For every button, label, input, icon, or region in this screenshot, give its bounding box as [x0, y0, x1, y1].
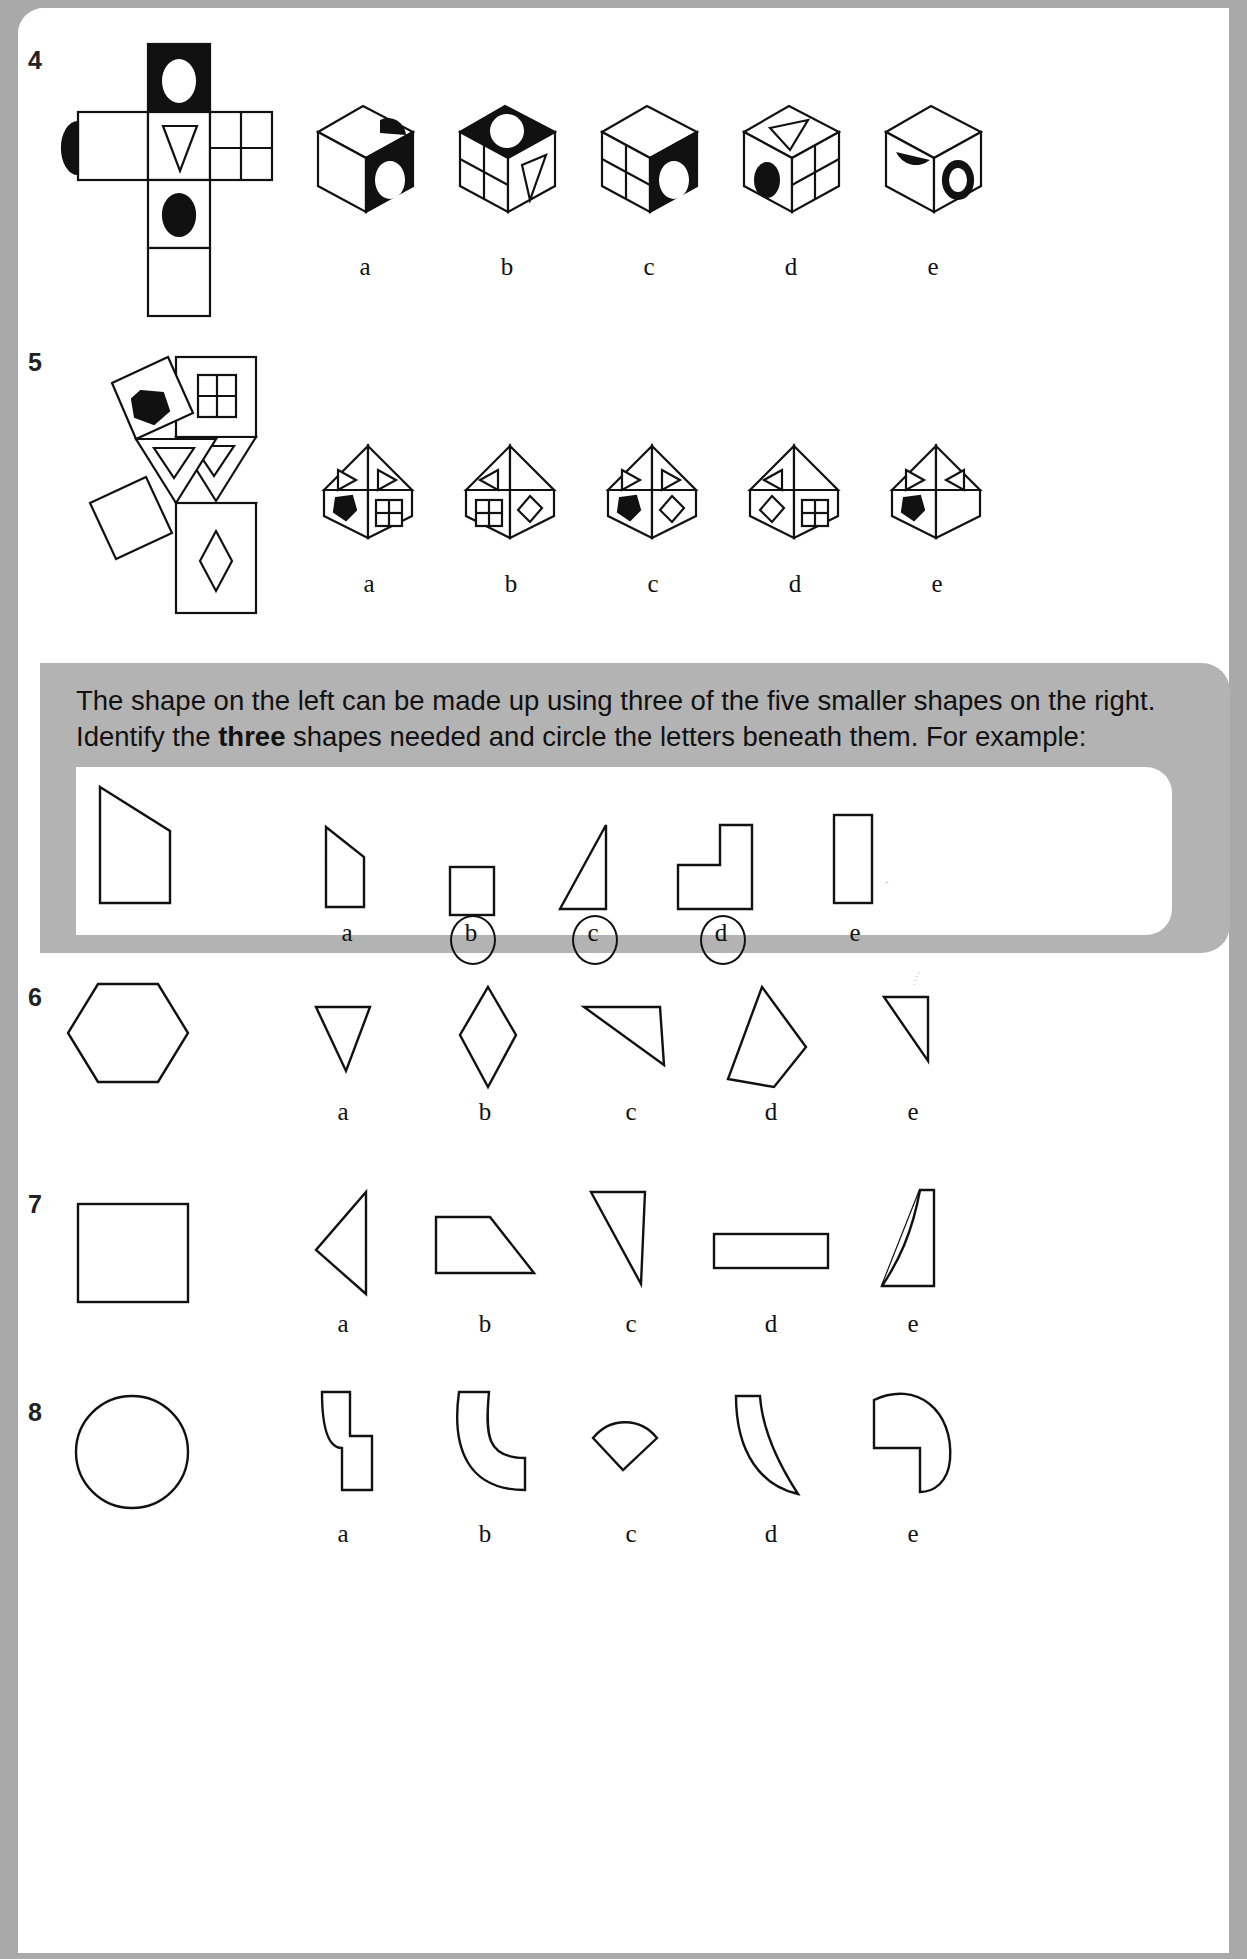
- q8-option-letter-d: d: [756, 1520, 786, 1548]
- q5-option-d-solid[interactable]: [740, 438, 850, 553]
- q4-option-c-cube[interactable]: [592, 100, 707, 220]
- q4-option-b-cube[interactable]: [450, 100, 565, 220]
- q4-cube-net: [58, 38, 308, 318]
- question-number-6: 6: [28, 983, 42, 1012]
- q7-option-d-shape[interactable]: [708, 1228, 838, 1288]
- q8-option-letter-e: e: [898, 1520, 928, 1548]
- q4-option-e-cube[interactable]: [876, 100, 991, 220]
- q4-option-letter-a: a: [350, 253, 380, 281]
- q5-octahedron-net: [68, 353, 298, 623]
- q8-option-b-shape[interactable]: [443, 1386, 543, 1506]
- q6-option-d-shape[interactable]: [718, 983, 828, 1093]
- example-letter-e: e: [840, 919, 870, 947]
- net-motif-white-ellipse: [162, 59, 196, 103]
- q6-option-c-shape[interactable]: [578, 1003, 688, 1083]
- q6-option-letter-d: d: [756, 1098, 786, 1126]
- q7-option-b-shape[interactable]: [428, 1213, 548, 1293]
- instruction-panel: The shape on the left can be made up usi…: [40, 663, 1230, 953]
- instruction-line2-post: shapes needed and circle the letters ben…: [285, 721, 1086, 752]
- q4-option-letter-b: b: [492, 253, 522, 281]
- q8-option-letter-c: c: [616, 1520, 646, 1548]
- net-face-plain-square: [90, 477, 172, 559]
- q7-option-c-shape[interactable]: [583, 1188, 673, 1303]
- q4-option-d-cube[interactable]: [734, 100, 849, 220]
- q6-option-a-shape[interactable]: [308, 1003, 388, 1083]
- example-option-a-shape[interactable]: [318, 823, 388, 915]
- q8-option-c-shape[interactable]: [583, 1408, 673, 1498]
- instruction-bold-three: three: [218, 721, 285, 752]
- question-number-5: 5: [28, 348, 42, 377]
- q5-option-letter-b: b: [496, 570, 526, 598]
- q5-option-letter-e: e: [922, 570, 952, 598]
- example-circle-c[interactable]: [572, 915, 618, 965]
- page-scuff-mark: ····: [909, 969, 924, 987]
- example-letter-a: a: [332, 919, 362, 947]
- q5-option-letter-c: c: [638, 570, 668, 598]
- q8-option-e-shape[interactable]: [858, 1386, 968, 1506]
- q6-target-hexagon: [60, 978, 200, 1088]
- q6-option-letter-c: c: [616, 1098, 646, 1126]
- q6-option-letter-e: e: [898, 1098, 928, 1126]
- instruction-text: The shape on the left can be made up usi…: [76, 683, 1196, 756]
- example-option-d-shape[interactable]: [672, 821, 762, 917]
- q4-option-letter-e: e: [918, 253, 948, 281]
- q8-option-letter-b: b: [470, 1520, 500, 1548]
- q7-option-a-shape[interactable]: [308, 1188, 388, 1303]
- q7-target-square: [60, 1198, 200, 1308]
- example-option-c-shape[interactable]: [554, 821, 624, 917]
- example-option-e-shape[interactable]: [826, 811, 886, 917]
- example-circle-b[interactable]: [450, 915, 496, 965]
- q4-option-a-cube[interactable]: [308, 100, 423, 220]
- question-number-7: 7: [28, 1190, 42, 1219]
- q7-option-letter-d: d: [756, 1310, 786, 1338]
- q4-option-letter-d: d: [776, 253, 806, 281]
- net-motif-black-ellipse: [163, 194, 195, 236]
- q7-option-e-shape[interactable]: [868, 1186, 958, 1304]
- net-motif-black-half-ellipse: [62, 122, 78, 174]
- q6-option-letter-b: b: [470, 1098, 500, 1126]
- q7-option-letter-a: a: [328, 1310, 358, 1338]
- q8-option-a-shape[interactable]: [308, 1386, 398, 1506]
- q7-option-letter-b: b: [470, 1310, 500, 1338]
- net-face-bottom-centre: [148, 248, 210, 316]
- q5-option-b-solid[interactable]: [456, 438, 566, 553]
- q7-option-letter-c: c: [616, 1310, 646, 1338]
- q5-option-e-solid[interactable]: [882, 438, 992, 553]
- q6-option-e-shape[interactable]: [868, 993, 958, 1088]
- example-circle-d[interactable]: [700, 915, 746, 965]
- q5-option-a-solid[interactable]: [314, 438, 424, 553]
- q4-option-letter-c: c: [634, 253, 664, 281]
- example-target-shape: [92, 781, 202, 911]
- example-option-b-shape[interactable]: [444, 863, 504, 919]
- q7-option-letter-e: e: [898, 1310, 928, 1338]
- q5-option-letter-d: d: [780, 570, 810, 598]
- q8-target-circle: [60, 1390, 210, 1520]
- q8-option-d-shape[interactable]: [718, 1390, 818, 1510]
- question-number-8: 8: [28, 1398, 42, 1427]
- q8-option-letter-a: a: [328, 1520, 358, 1548]
- instruction-line1: The shape on the left can be made up usi…: [76, 685, 1087, 716]
- q5-option-c-solid[interactable]: [598, 438, 708, 553]
- example-box: a b c d e `: [76, 767, 1172, 935]
- question-number-4: 4: [28, 46, 42, 75]
- net-face-middle-left: [78, 112, 148, 180]
- worksheet-page: 4 a: [18, 8, 1229, 1953]
- q6-option-letter-a: a: [328, 1098, 358, 1126]
- q6-option-b-shape[interactable]: [448, 983, 528, 1093]
- q5-option-letter-a: a: [354, 570, 384, 598]
